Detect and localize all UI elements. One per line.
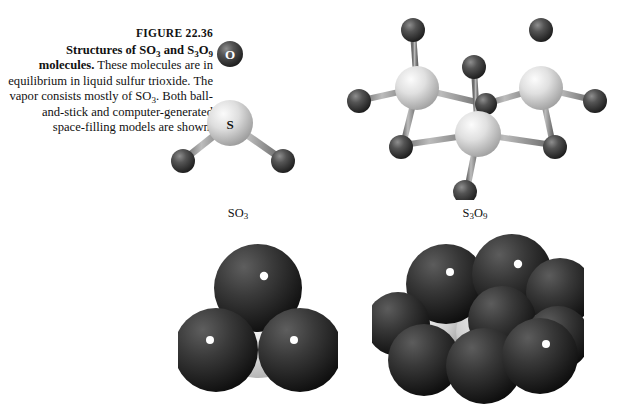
label-s3o9-text: S3O9 [463, 206, 488, 220]
sulfur-atom-label: S [226, 117, 233, 132]
highlight-back-right [514, 260, 522, 268]
label-so3-text: SO3 [228, 206, 248, 220]
oxygen-terminal-right-side [583, 89, 607, 113]
ball-and-stick-so3-model: O S [168, 28, 318, 198]
molecule-label-so3: SO3 [178, 206, 298, 221]
oxygen-terminal-left-top [401, 18, 425, 42]
highlight-front-right [542, 340, 550, 348]
highlight-top [260, 272, 268, 280]
highlight-lower-right [290, 336, 298, 344]
oxygen-terminal-front-bottom [453, 180, 477, 200]
highlight-back-left [446, 268, 454, 276]
oxygen-atom-label: O [225, 47, 235, 62]
oxygen-atom-left [171, 149, 195, 173]
oxygen-bridge-right [543, 135, 567, 159]
highlight-lower-left [206, 336, 214, 344]
oxygen-terminal-left-side [347, 89, 371, 113]
space-filling-so3-model [178, 240, 338, 400]
oxygen-terminal-right-top [529, 18, 553, 42]
oxygen-bridge-left [389, 135, 413, 159]
figure-page: FIGURE 22.36 Structures of SO3 and S3O9 … [0, 0, 617, 404]
oxygen-atom-right [271, 149, 295, 173]
sulfur-atom-right [519, 66, 563, 110]
molecule-label-s3o9: S3O9 [415, 206, 535, 221]
sulfur-atom-front [455, 111, 501, 157]
oxygen-sphere-front-right [502, 318, 578, 394]
sulfur-atom-left [395, 66, 439, 110]
space-filling-s3o9-model [372, 232, 584, 404]
oxygen-terminal-front-top [462, 55, 486, 79]
ball-and-stick-s3o9-model [345, 12, 607, 200]
